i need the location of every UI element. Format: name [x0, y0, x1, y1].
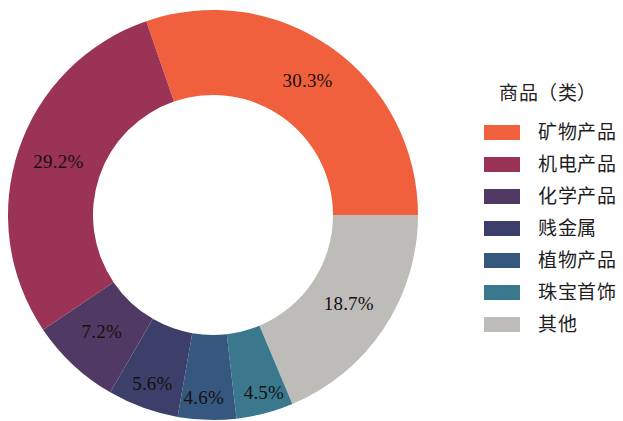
donut-chart-plot-area: 30.3%18.7%4.5%4.6%5.6%7.2%29.2% [0, 0, 440, 421]
donut-slice-label: 5.6% [132, 373, 172, 394]
legend-color-swatch [484, 157, 520, 172]
legend-color-swatch [484, 317, 520, 332]
legend-color-swatch [484, 285, 520, 300]
donut-slice[interactable] [146, 10, 418, 215]
legend-item-label: 珠宝首饰 [538, 283, 616, 302]
legend-item-label: 其他 [538, 315, 577, 334]
legend-item[interactable]: 化学产品 [470, 180, 623, 212]
legend-item[interactable]: 机电产品 [470, 148, 623, 180]
legend-item-label: 化学产品 [538, 187, 616, 206]
legend-item[interactable]: 珠宝首饰 [470, 276, 623, 308]
legend-item[interactable]: 植物产品 [470, 244, 623, 276]
legend-title: 商品（类） [478, 78, 618, 105]
donut-slice-label: 29.2% [33, 151, 83, 172]
donut-slice[interactable] [8, 21, 174, 330]
legend-item[interactable]: 贱金属 [470, 212, 623, 244]
legend-item-label: 机电产品 [538, 155, 616, 174]
legend-color-swatch [484, 189, 520, 204]
donut-slices-group [8, 10, 418, 420]
legend-item[interactable]: 其他 [470, 308, 623, 340]
legend-item-label: 植物产品 [538, 251, 616, 270]
legend-item-label: 贱金属 [538, 219, 597, 238]
donut-slice-label: 30.3% [283, 70, 333, 91]
donut-slice-label: 4.6% [184, 387, 224, 408]
legend-item[interactable]: 矿物产品 [470, 116, 623, 148]
legend-color-swatch [484, 125, 520, 140]
legend-item-list: 矿物产品机电产品化学产品贱金属植物产品珠宝首饰其他 [470, 116, 623, 340]
chart-legend: 商品（类） 矿物产品机电产品化学产品贱金属植物产品珠宝首饰其他 [470, 78, 623, 358]
donut-slice-label: 7.2% [82, 321, 122, 342]
donut-chart-figure: 30.3%18.7%4.5%4.6%5.6%7.2%29.2% 商品（类） 矿物… [0, 0, 623, 421]
legend-color-swatch [484, 221, 520, 236]
legend-color-swatch [484, 253, 520, 268]
donut-chart-svg: 30.3%18.7%4.5%4.6%5.6%7.2%29.2% [0, 0, 440, 421]
donut-slice-label: 4.5% [244, 382, 284, 403]
donut-slice-label: 18.7% [324, 293, 374, 314]
legend-item-label: 矿物产品 [538, 123, 616, 142]
